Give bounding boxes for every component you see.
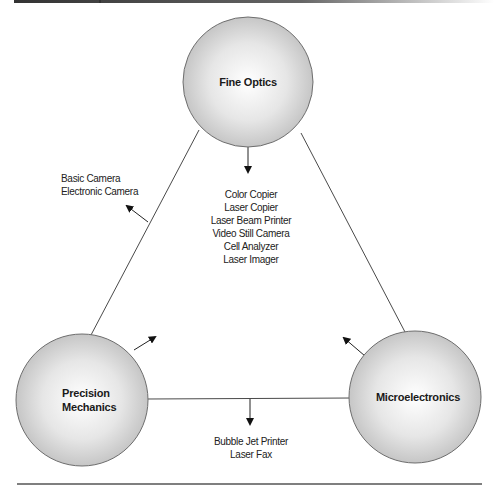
edge-mechanics-electronics — [147, 398, 352, 399]
output-item: Laser Copier — [224, 202, 279, 213]
node-label: Fine Optics — [219, 76, 277, 88]
output-list-optics-mechanics: Basic Camera Electronic Camera — [61, 173, 139, 197]
node-precision-mechanics: Precision Mechanics — [16, 334, 148, 466]
node-microelectronics: Microelectronics — [349, 331, 481, 463]
output-item: Bubble Jet Printer — [214, 436, 289, 447]
arrow-optics-mechanics-output — [127, 206, 148, 222]
output-item: Basic Camera — [61, 173, 121, 184]
node-label: Microelectronics — [376, 391, 460, 403]
edge-optics-mechanics — [91, 130, 199, 335]
output-item: Electronic Camera — [61, 186, 139, 197]
node-fine-optics: Fine Optics — [183, 17, 313, 147]
node-label-line-2: Mechanics — [62, 401, 117, 413]
output-item: Laser Beam Printer — [211, 215, 293, 226]
edge-optics-electronics — [301, 133, 405, 332]
node-label-line-1: Precision — [62, 387, 110, 399]
arrow-mechanics-center — [134, 337, 155, 350]
arrow-electronics-center — [344, 338, 365, 356]
output-list-mechanics-electronics: Bubble Jet Printer Laser Fax — [214, 436, 289, 460]
output-item: Cell Analyzer — [224, 241, 279, 252]
output-item: Laser Imager — [223, 254, 279, 265]
top-rule — [14, 0, 494, 3]
output-list-fine-optics: Color Copier Laser Copier Laser Beam Pri… — [211, 189, 293, 265]
technology-synergy-diagram: Fine Optics Precision Mechanics Microele… — [0, 0, 495, 490]
output-item: Laser Fax — [230, 449, 272, 460]
output-item: Color Copier — [225, 189, 279, 200]
output-item: Video Still Camera — [212, 228, 290, 239]
